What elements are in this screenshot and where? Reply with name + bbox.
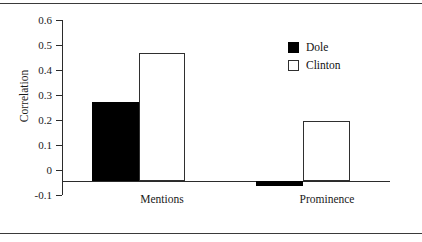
y-axis-tick-label-7: -0.1 bbox=[0, 190, 52, 201]
y-axis-tick-label-0: 0.6 bbox=[0, 15, 52, 26]
x-axis-category-label-prominence: Prominence bbox=[257, 193, 397, 206]
figure-container: 0.6 0.5 0.4 0.3 0.2 0.1 0 -0.1 Correlati… bbox=[0, 0, 422, 242]
x-axis-category-label-mentions: Mentions bbox=[92, 193, 232, 206]
legend-swatch-clinton-icon bbox=[288, 60, 299, 71]
legend-label-clinton: Clinton bbox=[306, 59, 341, 71]
legend-item-dole: Dole bbox=[288, 38, 341, 56]
y-axis-tick-2 bbox=[56, 70, 62, 71]
figure-bottom-rule bbox=[0, 233, 422, 234]
y-axis-tick-6 bbox=[56, 170, 62, 171]
y-axis-tick-3 bbox=[56, 95, 62, 96]
y-axis-tick-label-6: 0 bbox=[0, 165, 52, 176]
legend-swatch-dole-icon bbox=[288, 42, 299, 53]
bar-prominence-dole bbox=[256, 181, 303, 186]
y-axis-tick-1 bbox=[56, 45, 62, 46]
bar-prominence-clinton bbox=[303, 121, 350, 181]
y-axis-tick-7 bbox=[56, 195, 62, 196]
x-axis-zero-line bbox=[62, 181, 390, 182]
bar-mentions-clinton bbox=[139, 53, 185, 181]
y-axis-tick-4 bbox=[56, 120, 62, 121]
chart-legend: Dole Clinton bbox=[288, 38, 341, 74]
y-axis-line bbox=[62, 20, 63, 195]
y-axis-tick-5 bbox=[56, 145, 62, 146]
y-axis-tick-0 bbox=[56, 20, 62, 21]
legend-item-clinton: Clinton bbox=[288, 56, 341, 74]
bar-mentions-dole bbox=[92, 102, 139, 181]
legend-label-dole: Dole bbox=[306, 41, 328, 53]
bar-chart-plot-area: 0.6 0.5 0.4 0.3 0.2 0.1 0 -0.1 Correlati… bbox=[0, 0, 422, 233]
y-axis-title: Correlation bbox=[18, 46, 30, 146]
